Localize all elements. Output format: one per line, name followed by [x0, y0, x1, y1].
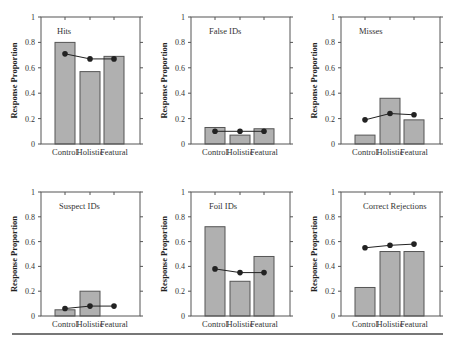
y-tick-label: 0.6 — [325, 238, 335, 247]
panel-title: False IDs — [209, 26, 241, 36]
x-tick-label: Control — [202, 147, 229, 157]
prediction-marker — [387, 111, 393, 117]
chart-panel-foil-ids: 00.20.40.60.81ControlHolisticFeaturalFoi… — [159, 188, 293, 329]
y-tick-label: 0 — [331, 140, 335, 149]
prediction-marker — [411, 241, 417, 247]
y-tick-label: 0 — [181, 312, 185, 321]
prediction-marker — [261, 270, 267, 276]
x-tick-label: Featural — [250, 319, 278, 329]
y-tick-label: 1 — [31, 188, 35, 197]
bar — [104, 56, 124, 144]
y-tick-label: 0.8 — [25, 38, 35, 47]
chart-grid: 00.20.40.60.81ControlHolisticFeaturalHit… — [0, 0, 455, 340]
y-tick-label: 0.8 — [325, 38, 335, 47]
prediction-marker — [212, 266, 218, 272]
y-tick-label: 1 — [331, 13, 335, 22]
y-tick-label: 0.6 — [325, 64, 335, 73]
bottom-rule — [12, 333, 443, 335]
prediction-marker — [237, 270, 243, 276]
prediction-marker — [237, 129, 243, 135]
y-tick-label: 0.8 — [325, 213, 335, 222]
x-tick-label: Featural — [100, 147, 128, 157]
y-axis-label: Response Proportion — [309, 216, 319, 292]
chart-panel-suspect-ids: 00.20.40.60.81ControlHolisticFeaturalSus… — [9, 188, 143, 329]
x-tick-label: Control — [352, 319, 379, 329]
panel-title: Correct Rejections — [363, 201, 427, 211]
bar — [230, 281, 250, 316]
y-tick-label: 0.6 — [175, 238, 185, 247]
prediction-marker — [87, 56, 93, 62]
y-tick-label: 1 — [31, 13, 35, 22]
x-tick-label: Control — [202, 319, 229, 329]
bar — [80, 72, 100, 144]
y-tick-label: 0.4 — [175, 89, 185, 98]
y-tick-label: 0.6 — [25, 238, 35, 247]
y-tick-label: 0.4 — [25, 89, 35, 98]
y-tick-label: 0.2 — [25, 115, 35, 124]
y-tick-label: 0.8 — [25, 213, 35, 222]
y-axis-label: Response Proportion — [9, 42, 19, 118]
bar — [230, 135, 250, 144]
x-tick-label: Control — [352, 147, 379, 157]
y-tick-label: 1 — [181, 188, 185, 197]
y-axis-label: Response Proportion — [159, 42, 169, 118]
x-tick-label: Featural — [100, 319, 128, 329]
bar — [380, 98, 400, 144]
prediction-marker — [411, 112, 417, 118]
chart-panel-misses: 00.20.40.60.81ControlHolisticFeaturalMis… — [309, 13, 443, 157]
chart-svg: 00.20.40.60.81ControlHolisticFeaturalHit… — [0, 0, 455, 340]
y-tick-label: 0.4 — [325, 89, 335, 98]
y-tick-label: 0.4 — [325, 262, 335, 271]
bar — [355, 287, 375, 316]
y-axis-label: Response Proportion — [309, 42, 319, 118]
x-tick-label: Featural — [250, 147, 278, 157]
prediction-marker — [387, 243, 393, 249]
bar — [55, 42, 75, 144]
x-tick-label: Control — [52, 319, 79, 329]
y-tick-label: 0.2 — [325, 287, 335, 296]
y-axis-label: Response Proportion — [9, 216, 19, 292]
y-tick-label: 0.8 — [175, 213, 185, 222]
y-tick-label: 0.4 — [175, 262, 185, 271]
prediction-marker — [87, 303, 93, 309]
panel-title: Suspect IDs — [59, 201, 100, 211]
y-tick-label: 0.6 — [175, 64, 185, 73]
y-tick-label: 0 — [31, 312, 35, 321]
prediction-marker — [212, 129, 218, 135]
bar — [254, 256, 274, 316]
chart-panel-correct-rejections: 00.20.40.60.81ControlHolisticFeaturalCor… — [309, 188, 443, 329]
y-tick-label: 0 — [331, 312, 335, 321]
x-tick-label: Featural — [400, 147, 428, 157]
y-tick-label: 0.2 — [325, 115, 335, 124]
bar — [380, 252, 400, 316]
panel-title: Hits — [57, 26, 71, 36]
y-tick-label: 0.4 — [25, 262, 35, 271]
prediction-marker — [261, 129, 267, 135]
bar — [404, 120, 424, 144]
y-tick-label: 0 — [181, 140, 185, 149]
x-tick-label: Featural — [400, 319, 428, 329]
y-tick-label: 0 — [31, 140, 35, 149]
y-tick-label: 1 — [331, 188, 335, 197]
y-axis-label: Response Proportion — [159, 216, 169, 292]
y-tick-label: 0.8 — [175, 38, 185, 47]
chart-panel-false-ids: 00.20.40.60.81ControlHolisticFeaturalFal… — [159, 13, 293, 157]
y-tick-label: 0.2 — [175, 287, 185, 296]
plot-frame — [191, 17, 290, 144]
prediction-marker — [111, 56, 117, 62]
prediction-marker — [362, 117, 368, 123]
prediction-marker — [62, 51, 68, 57]
bar — [404, 252, 424, 316]
panel-title: Misses — [359, 26, 383, 36]
panel-title: Foil IDs — [209, 201, 237, 211]
x-tick-label: Control — [52, 147, 79, 157]
y-tick-label: 1 — [181, 13, 185, 22]
chart-panel-hits: 00.20.40.60.81ControlHolisticFeaturalHit… — [9, 13, 143, 157]
prediction-marker — [362, 245, 368, 251]
y-tick-label: 0.2 — [25, 287, 35, 296]
bar — [355, 135, 375, 144]
y-tick-label: 0.6 — [25, 64, 35, 73]
prediction-marker — [111, 303, 117, 309]
prediction-marker — [62, 306, 68, 312]
y-tick-label: 0.2 — [175, 115, 185, 124]
